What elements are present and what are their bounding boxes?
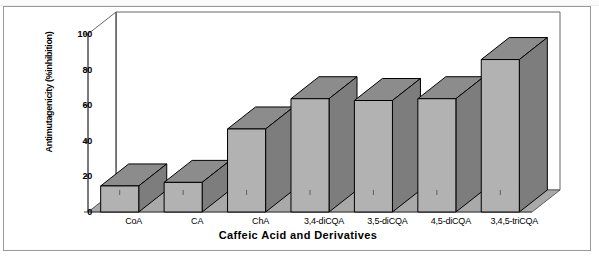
x-tick-label: CoA — [125, 216, 142, 226]
y-axis-title-holder: Antimutagenicity (%inhibition) — [26, 45, 44, 195]
figure-container: 020406080100 CoACAChA3,4-diCQA3,5-diCQA4… — [0, 0, 599, 257]
x-tick-label: 3,4-diCQA — [304, 216, 344, 226]
x-tick-label: ChA — [252, 216, 269, 226]
x-tick-label: CA — [191, 216, 203, 226]
y-axis-title: Antimutagenicity (%inhibition) — [44, 17, 54, 167]
x-tick-label: 4,5-diCQA — [431, 216, 471, 226]
x-tick-label: 3,5-diCQA — [367, 216, 407, 226]
x-axis-tick-labels: CoACAChA3,4-diCQA3,5-diCQA4,5-diCQA3,4,5… — [4, 7, 592, 252]
x-tick-label: 3,4,5-triCQA — [490, 216, 538, 226]
x-axis-title: Caffeic Acid and Derivatives — [4, 229, 592, 241]
figure-frame: 020406080100 CoACAChA3,4-diCQA3,5-diCQA4… — [3, 6, 591, 251]
